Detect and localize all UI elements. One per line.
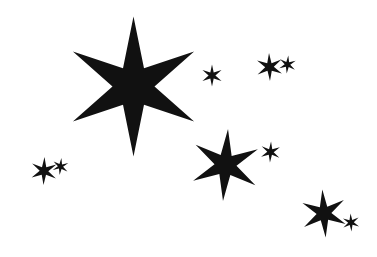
star-field bbox=[0, 0, 377, 257]
artwork-canvas bbox=[0, 0, 377, 257]
